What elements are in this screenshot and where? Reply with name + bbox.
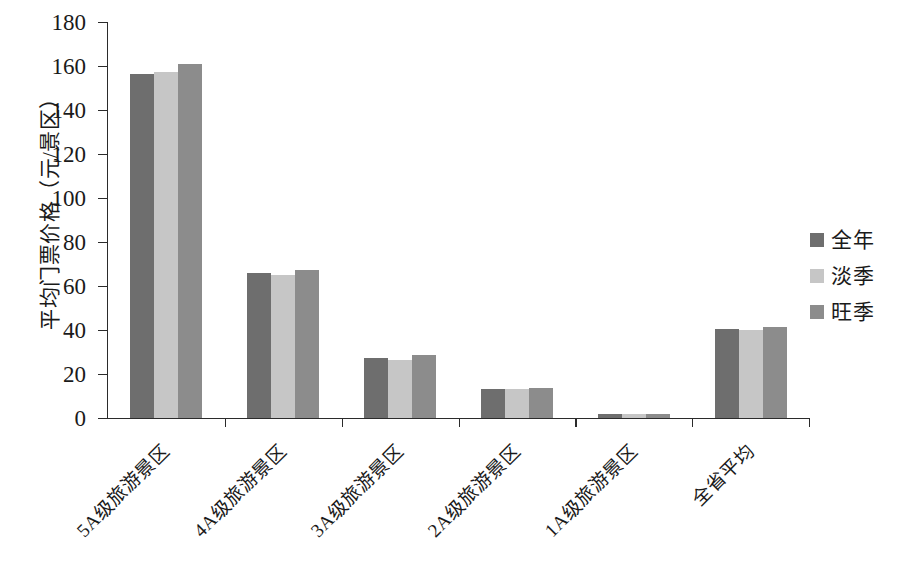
bar (412, 355, 436, 418)
bar (481, 389, 505, 418)
bar (598, 414, 622, 418)
x-axis-tick-label: 全省平均 (653, 441, 757, 545)
x-axis-tick-mark (692, 418, 693, 427)
y-axis-tick-label: 140 (26, 99, 86, 122)
y-axis-tick-labels: 180160140120100806040200 (24, 0, 86, 576)
x-axis-tick-mark (225, 418, 226, 427)
bar-chart: 平均门票价格（元/景区） 180160140120100806040200 5A… (0, 0, 913, 576)
bar-group (130, 22, 202, 418)
y-axis-tick-mark (98, 110, 107, 111)
y-axis-tick-label: 100 (26, 187, 86, 210)
bar-group (715, 22, 787, 418)
y-axis-tick-label: 180 (26, 11, 86, 34)
y-axis-tick-mark (98, 242, 107, 243)
y-axis-tick-mark (98, 330, 107, 331)
bar (178, 64, 202, 418)
y-axis-tick-label: 0 (26, 407, 86, 430)
legend-label: 淡季 (831, 266, 874, 287)
y-axis-tick-label: 80 (26, 231, 86, 254)
legend-item: 旺季 (810, 294, 910, 330)
y-axis-tick-label: 160 (26, 55, 86, 78)
x-axis-tick-mark (342, 418, 343, 427)
y-axis-tick-mark (98, 66, 107, 67)
y-axis-tick-label: 120 (26, 143, 86, 166)
legend-swatch-icon (810, 233, 824, 247)
legend-item: 淡季 (810, 258, 910, 294)
bar-group (481, 22, 553, 418)
y-axis-tick-mark (98, 22, 107, 23)
bar-group (598, 22, 670, 418)
legend-swatch-icon (810, 269, 824, 283)
plot-area (108, 22, 809, 418)
bar (364, 358, 388, 419)
y-axis-tick-mark (98, 418, 107, 419)
x-axis-tick-label: 2A级旅游景区 (420, 441, 524, 545)
y-axis-tick-label: 60 (26, 275, 86, 298)
chart-legend: 全年淡季旺季 (810, 222, 910, 330)
x-axis-tick-label: 4A级旅游景区 (186, 441, 290, 545)
bar (715, 329, 739, 418)
bar (739, 330, 763, 418)
bar (505, 389, 529, 418)
legend-swatch-icon (810, 305, 824, 319)
y-axis-tick-label: 20 (26, 363, 86, 386)
y-axis-tick-mark (98, 286, 107, 287)
bar (295, 270, 319, 419)
x-axis-tick-mark (575, 418, 576, 427)
legend-label: 旺季 (831, 302, 874, 323)
bar (763, 327, 787, 418)
legend-item: 全年 (810, 222, 910, 258)
y-axis-tick-label: 40 (26, 319, 86, 342)
bar (388, 360, 412, 418)
bar (154, 72, 178, 419)
x-axis-tick-mark (809, 418, 810, 427)
bar (646, 414, 670, 418)
bar (622, 414, 646, 418)
x-axis-tick-label: 1A级旅游景区 (537, 441, 641, 545)
x-axis-tick-mark (459, 418, 460, 427)
y-axis-tick-mark (98, 374, 107, 375)
bar-group (364, 22, 436, 418)
bar (247, 273, 271, 418)
y-axis-tick-mark (98, 154, 107, 155)
legend-label: 全年 (831, 230, 874, 251)
x-axis-tick-label: 3A级旅游景区 (303, 441, 407, 545)
bar (271, 275, 295, 418)
y-axis-tick-mark (98, 198, 107, 199)
bar-group (247, 22, 319, 418)
bar (130, 74, 154, 418)
bar (529, 388, 553, 418)
